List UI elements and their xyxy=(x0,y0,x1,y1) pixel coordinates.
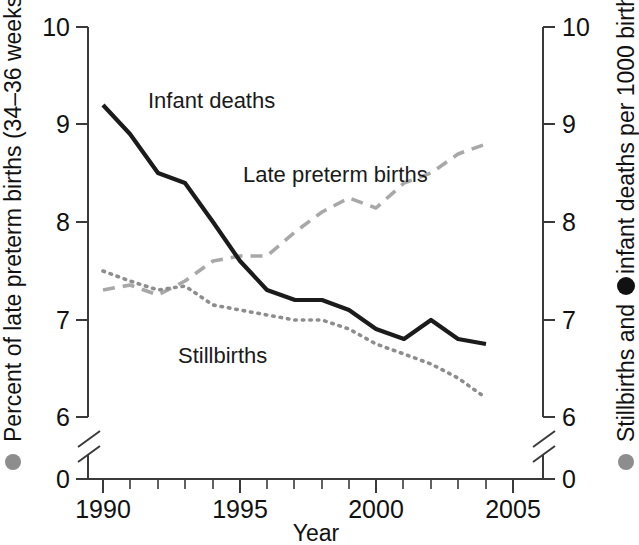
right-axis-bullet-infant-icon xyxy=(617,277,635,295)
right-ticklabel-6: 6 xyxy=(562,403,576,431)
x-ticklabel-1995: 1995 xyxy=(212,495,268,523)
left-axis-break-mark xyxy=(78,431,100,447)
right-ticklabel-9: 9 xyxy=(562,110,576,138)
x-ticklabel-2000: 2000 xyxy=(348,495,404,523)
left-axis-title-group: Percent of late preterm births (34–36 we… xyxy=(0,0,26,470)
left-ticklabel-0: 0 xyxy=(56,465,70,493)
series-stillbirths xyxy=(103,271,486,398)
right-ticklabel-8: 8 xyxy=(562,208,576,236)
right-axis-title-part2: infant deaths per 1000 births xyxy=(613,0,639,274)
left-ticklabel-10: 10 xyxy=(42,13,70,41)
chart-container: 10 9 8 7 6 0 10 9 8 7 6 0 xyxy=(0,0,639,545)
x-ticklabel-1990: 1990 xyxy=(75,495,131,523)
left-axis-title: Percent of late preterm births (34–36 we… xyxy=(0,0,26,442)
left-ticklabel-7: 7 xyxy=(56,306,70,334)
line-chart: 10 9 8 7 6 0 10 9 8 7 6 0 xyxy=(0,0,639,545)
left-ticklabel-6: 6 xyxy=(56,403,70,431)
left-ticklabel-8: 8 xyxy=(56,208,70,236)
x-axis: 1990 1995 2000 2005 Year xyxy=(75,479,543,545)
right-ticklabel-0: 0 xyxy=(562,465,576,493)
left-axis-bullet-icon xyxy=(5,454,21,470)
x-ticklabel-2005: 2005 xyxy=(485,495,541,523)
plot-series xyxy=(103,105,486,398)
left-ticklabel-9: 9 xyxy=(56,110,70,138)
right-axis-title-part1: Stillbirths and xyxy=(613,304,639,442)
series-annotations: Infant deaths Late preterm births Stillb… xyxy=(148,88,428,368)
right-ticklabel-7: 7 xyxy=(562,306,576,334)
annotation-late-preterm-births: Late preterm births xyxy=(243,162,428,187)
right-ticklabel-10: 10 xyxy=(562,13,590,41)
series-infant-deaths xyxy=(103,105,486,344)
left-axis: 10 9 8 7 6 0 xyxy=(42,13,100,493)
annotation-infant-deaths: Infant deaths xyxy=(148,88,275,113)
right-axis: 10 9 8 7 6 0 xyxy=(533,13,590,493)
x-axis-title: Year xyxy=(293,520,340,545)
right-axis-title-group: Stillbirths and infant deaths per 1000 b… xyxy=(613,0,639,470)
annotation-stillbirths: Stillbirths xyxy=(178,343,267,368)
right-axis-break-mark xyxy=(533,431,555,447)
right-axis-bullet-stillbirths-icon xyxy=(618,454,634,470)
